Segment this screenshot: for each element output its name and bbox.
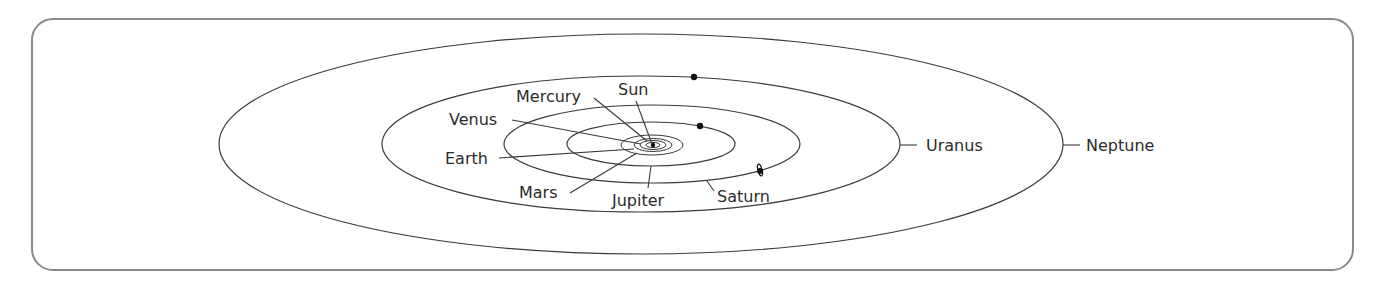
uranus-planet-icon — [691, 74, 697, 80]
jupiter-planet-icon — [697, 123, 703, 129]
label-uranus: Uranus — [926, 136, 983, 155]
label-sun: Sun — [618, 80, 648, 99]
leader-mercury — [594, 98, 647, 141]
saturn-planet-icon — [757, 164, 764, 177]
orbit-jupiter — [567, 122, 735, 166]
leader-earth — [499, 149, 634, 158]
label-neptune: Neptune — [1086, 136, 1154, 155]
label-jupiter: Jupiter — [611, 191, 665, 210]
label-saturn: Saturn — [717, 187, 770, 206]
solar-system-diagram: Sun Mercury Venus Earth Mars Jupiter Sat… — [0, 0, 1391, 281]
leader-saturn — [707, 181, 714, 191]
label-venus: Venus — [449, 110, 497, 129]
label-mars: Mars — [519, 183, 558, 202]
label-earth: Earth — [445, 149, 488, 168]
label-mercury: Mercury — [516, 87, 581, 106]
leader-mars — [570, 153, 637, 193]
leader-jupiter — [648, 166, 651, 188]
